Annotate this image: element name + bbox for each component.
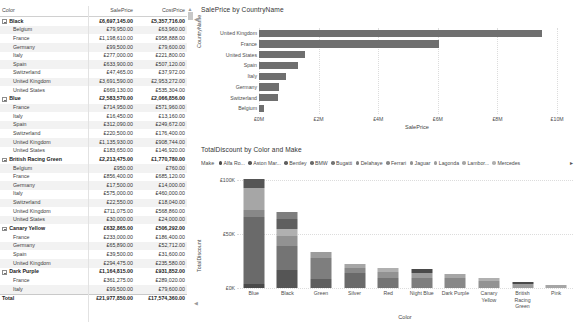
cell-color[interactable]: France	[0, 34, 83, 43]
column-stack[interactable]	[344, 264, 365, 288]
expand-collapse-icon[interactable]	[2, 270, 7, 275]
stack-segment[interactable]	[277, 229, 298, 236]
matrix-row[interactable]: Belgium£950.00£760.00	[0, 164, 187, 173]
stack-segment[interactable]	[277, 246, 298, 270]
column-header-color[interactable]: Color	[0, 6, 83, 17]
matrix-group-row[interactable]: Canary Yellow£632,865.00£506,292.00	[0, 224, 187, 233]
cell-color[interactable]: British Racing Green	[0, 155, 83, 164]
matrix-row[interactable]: United Kingdom£711,075.00£568,860.00	[0, 207, 187, 216]
stack-segment[interactable]	[411, 278, 432, 288]
cell-color[interactable]: France	[0, 104, 83, 113]
cell-color[interactable]: Italy	[0, 190, 83, 199]
matrix-row[interactable]: France£714,950.00£571,960.00	[0, 104, 187, 113]
cell-color[interactable]: Switzerland	[0, 199, 83, 208]
cell-color[interactable]: United States	[0, 216, 83, 225]
cell-color[interactable]: United Kingdom	[0, 78, 83, 87]
matrix-row[interactable]: United States£30,000.00£24,000.00	[0, 216, 187, 225]
legend-item[interactable]: Mercedes	[492, 160, 520, 166]
stack-segment[interactable]	[277, 219, 298, 230]
bar[interactable]	[259, 30, 542, 37]
column-stack[interactable]	[243, 179, 264, 288]
matrix-row[interactable]: Belgium£79,950.00£63,960.00	[0, 26, 187, 35]
matrix-row[interactable]: Switzerland£220,500.00£176,400.00	[0, 129, 187, 138]
matrix-row[interactable]: Italy£277,000.00£221,800.00	[0, 52, 187, 61]
stack-segment[interactable]	[277, 236, 298, 246]
column-stack[interactable]	[478, 278, 499, 288]
matrix-row[interactable]: Spain£633,900.00£507,120.00	[0, 60, 187, 69]
bar[interactable]	[259, 94, 278, 101]
matrix-row[interactable]: France£856,400.00£685,120.00	[0, 173, 187, 182]
matrix-row[interactable]: Italy£575,000.00£460,000.00	[0, 190, 187, 199]
stack-segment[interactable]	[310, 279, 331, 288]
stack-segment[interactable]	[243, 179, 264, 188]
expand-collapse-icon[interactable]	[2, 158, 7, 163]
stack-segment[interactable]	[378, 278, 399, 288]
column-stack[interactable]	[445, 274, 466, 288]
legend-item[interactable]: Lagonda	[434, 160, 459, 166]
matrix-row[interactable]: Germany£99,500.00£79,600.00	[0, 43, 187, 52]
legend-item[interactable]: BMW	[310, 160, 328, 166]
cell-color[interactable]: Switzerland	[0, 129, 83, 138]
cell-color[interactable]: Canary Yellow	[0, 224, 83, 233]
column-header-saleprice[interactable]: SalePrice	[83, 6, 135, 17]
matrix-group-row[interactable]: Dark Purple£1,164,815.00£931,852.00	[0, 268, 187, 277]
matrix-row[interactable]: Italy£16,450.00£13,160.00	[0, 112, 187, 121]
cell-color[interactable]: United States	[0, 147, 83, 156]
column-stack[interactable]	[512, 282, 533, 288]
matrix-row[interactable]: Spain£39,500.00£31,600.00	[0, 250, 187, 259]
cell-color[interactable]: Switzerland	[0, 69, 83, 78]
matrix-row[interactable]: Germany£65,890.00£52,712.00	[0, 242, 187, 251]
stack-segment[interactable]	[243, 284, 264, 288]
matrix-row[interactable]: Switzerland£22,550.00£18,040.00	[0, 199, 187, 208]
stack-segment[interactable]	[243, 210, 264, 218]
expand-collapse-icon[interactable]	[2, 227, 7, 232]
cell-color[interactable]: United Kingdom	[0, 138, 83, 147]
cell-color[interactable]: United Kingdom	[0, 259, 83, 268]
cell-color[interactable]: Belgium	[0, 164, 83, 173]
bar[interactable]	[259, 40, 439, 47]
cell-color[interactable]: United Kingdom	[0, 207, 83, 216]
cell-color[interactable]: Germany	[0, 43, 83, 52]
matrix-group-row[interactable]: Blue£2,583,570.00£2,066,856.00	[0, 95, 187, 104]
cell-color[interactable]: Dark Purple	[0, 268, 83, 277]
matrix-row[interactable]: United Kingdom£1,135,930.00£908,744.00	[0, 138, 187, 147]
bar[interactable]	[259, 62, 298, 69]
matrix-row[interactable]: United Kingdom£3,691,590.00£2,953,272.00	[0, 78, 187, 87]
stack-segment[interactable]	[277, 270, 298, 288]
stack-segment[interactable]	[445, 278, 466, 288]
cell-color[interactable]: Spain	[0, 121, 83, 130]
cell-color[interactable]: Germany	[0, 242, 83, 251]
legend-next-arrow[interactable]: ▸	[570, 160, 575, 166]
matrix-row[interactable]: France£361,275.00£289,020.00	[0, 276, 187, 285]
matrix-row[interactable]: Switzerland£47,465.00£37,972.00	[0, 69, 187, 78]
cell-color[interactable]: Italy	[0, 285, 83, 294]
legend-item[interactable]: Jaguar	[410, 160, 431, 166]
stack-segment[interactable]	[478, 281, 499, 288]
cell-color[interactable]: Italy	[0, 112, 83, 121]
cell-color[interactable]: France	[0, 276, 83, 285]
matrix-row[interactable]: United Kingdom£294,475.00£235,580.00	[0, 259, 187, 268]
matrix-group-row[interactable]: British Racing Green£2,213,475.00£1,770,…	[0, 155, 187, 164]
cell-color[interactable]: France	[0, 233, 83, 242]
cell-color[interactable]: Total	[0, 294, 83, 303]
column-header-costprice[interactable]: CostPrice	[135, 6, 187, 17]
cell-color[interactable]: Italy	[0, 52, 83, 61]
legend-item[interactable]: Alfa Ro...	[219, 160, 245, 166]
matrix-row[interactable]: United States£183,650.00£146,920.00	[0, 147, 187, 156]
expand-collapse-icon[interactable]	[2, 19, 7, 24]
matrix-row[interactable]: France£1,198,610.00£958,888.00	[0, 34, 187, 43]
cell-color[interactable]: Black	[0, 17, 83, 26]
cell-color[interactable]: Belgium	[0, 26, 83, 35]
matrix-row[interactable]: France£233,000.00£186,400.00	[0, 233, 187, 242]
legend-item[interactable]: Bugatti	[331, 160, 352, 166]
legend-item[interactable]: Ferrari	[386, 160, 406, 166]
cell-color[interactable]: Germany	[0, 181, 83, 190]
column-stack[interactable]	[378, 268, 399, 288]
legend-item[interactable]: Delahaye	[356, 160, 383, 166]
stack-segment[interactable]	[512, 284, 533, 288]
bar[interactable]	[259, 73, 286, 80]
column-chart-scroll-arrow[interactable]: ◀	[194, 300, 198, 306]
bar[interactable]	[259, 51, 305, 58]
legend-item[interactable]: Lambor...	[462, 160, 489, 166]
matrix-row[interactable]: United States£669,130.00£535,304.00	[0, 86, 187, 95]
